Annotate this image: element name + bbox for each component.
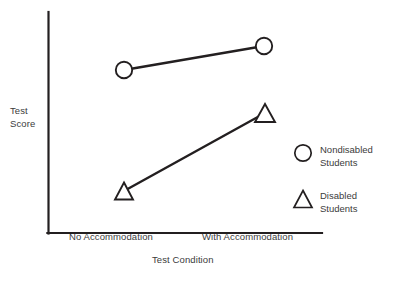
- legend-label-nondisabled-line-1: Nondisabled: [320, 144, 373, 157]
- y-axis-title-line-1: Test: [10, 104, 50, 117]
- y-axis-title-line-2: Score: [10, 117, 50, 130]
- data-point-nondisabled-with-accommodation: [256, 38, 272, 54]
- legend-label-disabled-line-1: Disabled: [320, 190, 358, 203]
- plot-area: [0, 0, 398, 281]
- data-point-nondisabled-no-accommodation: [116, 62, 132, 78]
- legend-label-disabled-line-2: Students: [320, 203, 358, 216]
- legend-item-nondisabled-students: Nondisabled Students: [320, 144, 373, 169]
- data-point-disabled-no-accommodation: [115, 183, 133, 200]
- series-disabled-students: [115, 104, 275, 200]
- legend-label-nondisabled-line-2: Students: [320, 157, 373, 170]
- data-point-disabled-with-accommodation: [255, 104, 275, 122]
- series-nondisabled-students: [116, 38, 272, 78]
- legend-circle-icon: [295, 145, 311, 161]
- y-axis-title: Test Score: [10, 104, 50, 130]
- x-axis-title: Test Condition: [152, 254, 214, 266]
- legend-triangle-icon: [294, 191, 312, 208]
- series-line-disabled: [124, 113, 265, 191]
- axis-lines: [47, 12, 322, 234]
- legend-item-disabled-students: Disabled Students: [320, 190, 358, 215]
- series-line-nondisabled: [124, 46, 264, 70]
- chart-figure: No Accommodation With Accommodation Test…: [0, 0, 398, 281]
- legend: [294, 145, 312, 208]
